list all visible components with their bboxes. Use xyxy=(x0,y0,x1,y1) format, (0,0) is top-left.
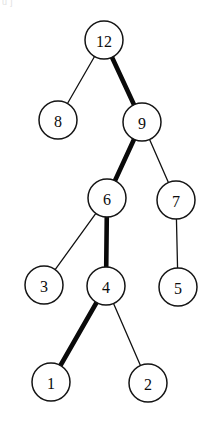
tree-node-6: 6 xyxy=(88,179,126,217)
tree-edge-6-3 xyxy=(55,213,96,269)
tree-node-3: 3 xyxy=(25,266,63,304)
diagram-canvas: u j 12896734512 xyxy=(0,0,221,424)
tree-node-8: 8 xyxy=(39,101,77,139)
binary-tree-graphic: 12896734512 xyxy=(0,0,221,424)
tree-node-label-4: 4 xyxy=(102,279,110,296)
tree-node-9: 9 xyxy=(123,103,161,141)
tree-node-label-12: 12 xyxy=(96,33,112,50)
tree-edge-7-5 xyxy=(176,219,177,268)
tree-node-label-3: 3 xyxy=(40,278,48,295)
tree-node-label-2: 2 xyxy=(144,376,152,393)
tree-node-label-5: 5 xyxy=(174,280,182,297)
tree-edge-9-7 xyxy=(150,139,169,182)
tree-node-label-6: 6 xyxy=(103,191,111,208)
tree-edge-9-6 xyxy=(115,139,134,180)
tree-node-5: 5 xyxy=(159,268,197,306)
tree-edge-12-9 xyxy=(112,57,134,105)
tree-node-1: 1 xyxy=(32,363,70,401)
tree-node-label-1: 1 xyxy=(47,375,55,392)
tree-edge-4-1 xyxy=(60,302,96,365)
tree-node-12: 12 xyxy=(85,21,123,59)
tree-edge-12-8 xyxy=(67,56,94,103)
tree-edge-4-2 xyxy=(114,303,141,365)
tree-node-7: 7 xyxy=(157,181,195,219)
tree-edge-6-4 xyxy=(106,217,107,267)
tree-node-label-9: 9 xyxy=(138,115,146,132)
tree-node-2: 2 xyxy=(129,364,167,402)
nodes-layer: 12896734512 xyxy=(25,21,197,402)
tree-node-4: 4 xyxy=(87,267,125,305)
tree-node-label-7: 7 xyxy=(172,193,180,210)
tree-node-label-8: 8 xyxy=(54,113,62,130)
